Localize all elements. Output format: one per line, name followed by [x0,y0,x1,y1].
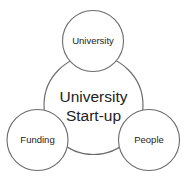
satellite-label-people: People [134,134,164,145]
satellite-label-funding: Funding [20,134,54,145]
core-label-line-1: University [59,88,127,105]
venn-cluster-diagram: University Start-up University Funding P… [0,0,186,183]
core-label-line-2: Start-up [66,107,121,124]
satellite-label-university: University [72,35,114,46]
diagram-canvas: University Start-up University Funding P… [0,0,186,183]
